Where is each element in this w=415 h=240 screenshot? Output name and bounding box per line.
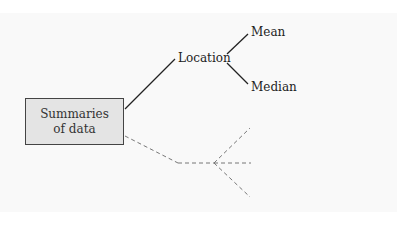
node-median: Median <box>251 80 297 94</box>
root-node-line1: Summaries <box>40 107 109 122</box>
edge-hidden-child-bottom <box>214 163 250 197</box>
edge-root-hidden <box>125 136 178 163</box>
root-node: Summaries of data <box>25 98 124 145</box>
node-mean: Mean <box>251 25 286 39</box>
edge-location-median <box>227 63 248 84</box>
node-location: Location <box>178 51 231 65</box>
root-node-line2: of data <box>53 122 95 137</box>
edge-root-location <box>125 59 175 109</box>
edge-hidden-child-top <box>214 128 250 163</box>
